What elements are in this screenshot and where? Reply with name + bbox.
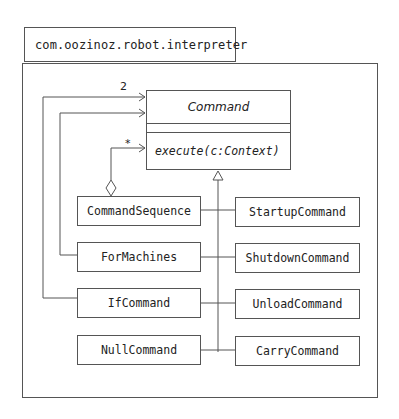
class-name: StartupCommand — [249, 205, 346, 219]
class-for-machines[interactable]: ForMachines — [77, 242, 201, 272]
attributes-compartment — [147, 124, 290, 133]
class-name: ForMachines — [101, 250, 177, 264]
package-tab: com.oozinoz.robot.interpreter — [24, 27, 236, 62]
class-unload-command[interactable]: UnloadCommand — [235, 289, 360, 319]
class-carry-command[interactable]: CarryCommand — [235, 336, 360, 366]
class-name: Command — [147, 91, 290, 124]
class-null-command[interactable]: NullCommand — [77, 335, 201, 365]
class-if-command[interactable]: IfCommand — [77, 288, 201, 318]
class-startup-command[interactable]: StartupCommand — [235, 197, 360, 227]
class-command-sequence[interactable]: CommandSequence — [77, 196, 201, 226]
command-class[interactable]: Command execute(c:Context) — [146, 90, 291, 170]
multiplicity-label: * — [125, 137, 131, 150]
operation: execute(c:Context) — [147, 133, 290, 169]
class-name: IfCommand — [108, 296, 170, 310]
class-name: CarryCommand — [256, 344, 339, 358]
package-name: com.oozinoz.robot.interpreter — [35, 38, 247, 52]
class-name: NullCommand — [101, 343, 177, 357]
class-name: CommandSequence — [87, 204, 191, 218]
class-name: UnloadCommand — [252, 297, 342, 311]
multiplicity-label: 2 — [120, 80, 127, 93]
class-shutdown-command[interactable]: ShutdownCommand — [235, 243, 360, 273]
class-name: ShutdownCommand — [246, 251, 350, 265]
